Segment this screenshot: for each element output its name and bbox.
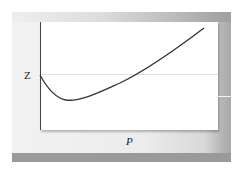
y-axis-label: Z (24, 69, 31, 81)
x-axis-label: P (126, 135, 133, 147)
chart-svg (0, 0, 242, 170)
z-curve (40, 28, 204, 100)
